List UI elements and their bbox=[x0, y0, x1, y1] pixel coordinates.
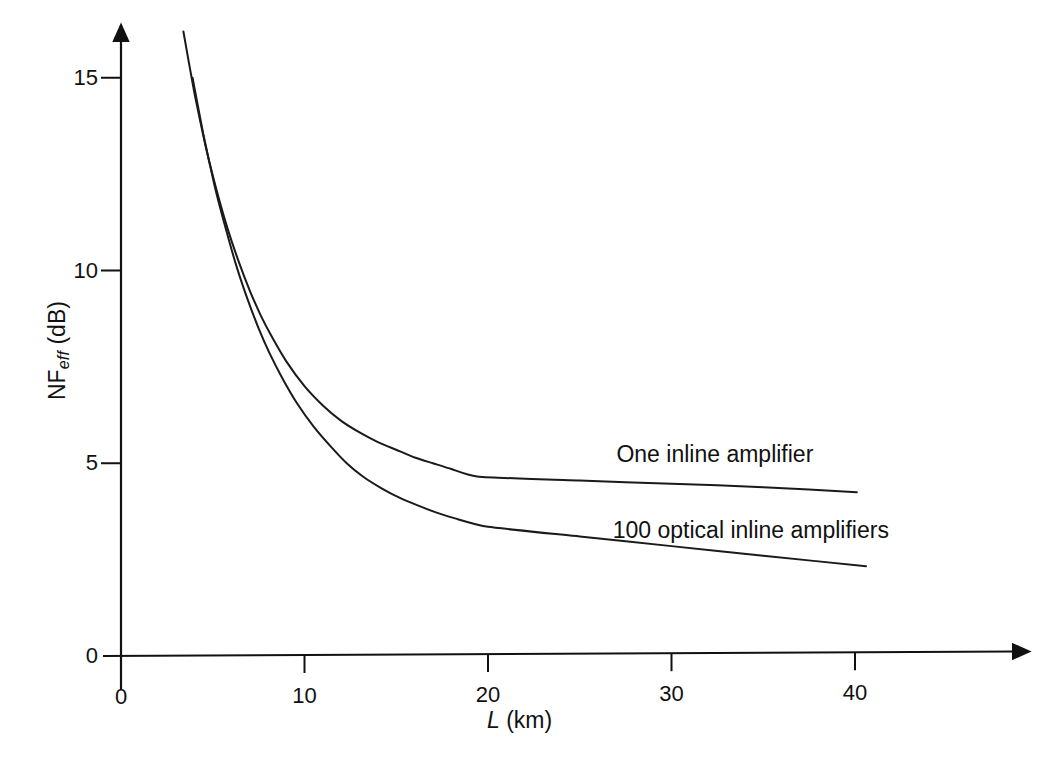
y-tick-label-10: 10 bbox=[40, 258, 98, 284]
y-tick-label-0: 0 bbox=[40, 643, 98, 669]
x-tick-label-40: 40 bbox=[843, 680, 867, 706]
series-annotation-one-inline-amplifier: One inline amplifier bbox=[616, 441, 813, 468]
y-axis-title-subscript: eff bbox=[55, 351, 72, 369]
x-tick-label-30: 30 bbox=[659, 681, 683, 707]
x-tick-label-10: 10 bbox=[292, 683, 316, 709]
chart-figure: 051015 010203040 NFeff (dB) L (km) One i… bbox=[0, 0, 1044, 773]
y-tick-label-5: 5 bbox=[40, 450, 98, 476]
x-axis-title-symbol: L bbox=[487, 707, 500, 733]
y-tick-label-15: 15 bbox=[40, 65, 98, 91]
x-axis-title-unit: (km) bbox=[500, 707, 552, 733]
axes bbox=[103, 40, 1014, 690]
chart-plot-area bbox=[0, 0, 1044, 773]
x-axis bbox=[103, 652, 1014, 657]
x-tick-label-0: 0 bbox=[115, 684, 127, 710]
y-axis-ticks bbox=[101, 78, 121, 464]
x-tick-label-20: 20 bbox=[476, 682, 500, 708]
y-axis-title: NFeff (dB) bbox=[44, 301, 73, 400]
data-series-group bbox=[183, 31, 866, 566]
series-annotation-100-optical-inline-amplifiers: 100 optical inline amplifiers bbox=[613, 517, 889, 544]
x-axis-title: L (km) bbox=[487, 707, 552, 734]
y-axis-title-main: NF bbox=[44, 369, 70, 400]
series-line-1 bbox=[193, 78, 866, 566]
y-axis-title-unit: (dB) bbox=[44, 301, 70, 351]
series-line-0 bbox=[183, 31, 856, 492]
